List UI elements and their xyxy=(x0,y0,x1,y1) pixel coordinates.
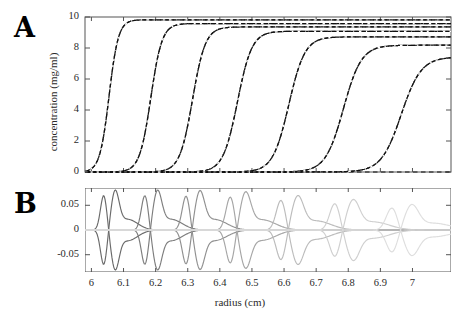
panel-a-plot xyxy=(85,17,451,172)
curve-solid-1 xyxy=(85,20,451,171)
residual-curve-down-6 xyxy=(85,204,451,261)
x-tick-label: 7 xyxy=(397,277,427,288)
y-tick-label-b: 0 xyxy=(45,223,79,234)
curve-dashed-4 xyxy=(85,31,451,172)
panel-a-frame xyxy=(85,17,451,172)
y-tick-label-a: 8 xyxy=(45,41,79,52)
x-tick-label: 6.7 xyxy=(301,277,331,288)
curve-solid-4 xyxy=(85,31,451,172)
y-tick-label-a: 10 xyxy=(45,10,79,21)
x-tick-label: 6.5 xyxy=(237,277,267,288)
x-tick-label: 6.3 xyxy=(173,277,203,288)
curve-dashed-overlay-3 xyxy=(85,27,451,172)
y-tick-label-a: 4 xyxy=(45,103,79,114)
residual-curve-up-6 xyxy=(85,199,451,256)
curve-dashed-3 xyxy=(85,27,451,172)
curve-dashed-overlay-4 xyxy=(85,31,451,172)
figure-container: A B concentration (mg/ml) radius (cm) 02… xyxy=(0,0,468,317)
curve-dashed-1 xyxy=(85,20,451,171)
curve-dashed-overlay-1 xyxy=(85,20,451,171)
x-tick-label: 6.6 xyxy=(269,277,299,288)
x-tick-label: 6.2 xyxy=(141,277,171,288)
y-tick-label-b: 0.05 xyxy=(45,198,79,209)
x-tick-label: 6 xyxy=(76,277,106,288)
panel-b-plot xyxy=(85,188,451,272)
y-tick-label-a: 6 xyxy=(45,72,79,83)
y-tick-label-a: 0 xyxy=(45,165,79,176)
x-tick-label: 6.4 xyxy=(205,277,235,288)
y-tick-label-b: -0.05 xyxy=(45,248,79,259)
x-tick-label: 6.9 xyxy=(365,277,395,288)
x-tick-label: 6.1 xyxy=(109,277,139,288)
curve-solid-3 xyxy=(85,27,451,172)
x-tick-label: 6.8 xyxy=(333,277,363,288)
y-tick-label-a: 2 xyxy=(45,134,79,145)
